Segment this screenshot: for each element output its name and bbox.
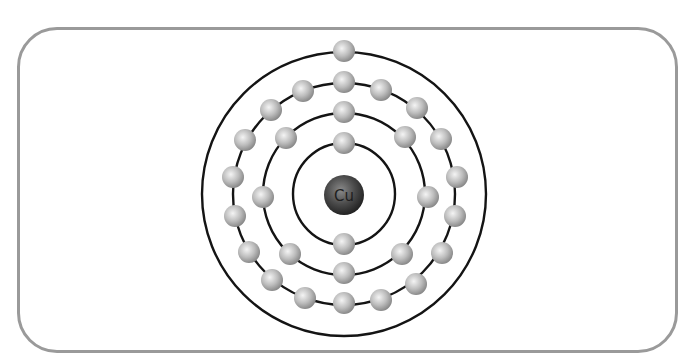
electron	[333, 262, 355, 284]
electron	[431, 242, 453, 264]
electron	[333, 233, 355, 255]
electron	[370, 79, 392, 101]
electron	[333, 292, 355, 314]
electron	[224, 205, 246, 227]
electron	[222, 166, 244, 188]
electron	[405, 273, 427, 295]
electron	[292, 80, 314, 102]
electron	[333, 40, 355, 62]
electron	[333, 101, 355, 123]
electron	[279, 243, 301, 265]
electron	[333, 71, 355, 93]
electron	[234, 129, 256, 151]
electron	[261, 269, 283, 291]
electron	[406, 97, 428, 119]
electron	[238, 241, 260, 263]
bohr-model-diagram: Cu	[0, 0, 698, 363]
electron	[391, 243, 413, 265]
electron	[333, 132, 355, 154]
electron	[444, 205, 466, 227]
nucleus: Cu	[324, 175, 364, 215]
electron	[430, 128, 452, 150]
element-symbol: Cu	[334, 187, 354, 205]
electron	[446, 166, 468, 188]
electron	[417, 186, 439, 208]
electron	[252, 186, 274, 208]
electron	[260, 99, 282, 121]
electron	[370, 289, 392, 311]
electron	[294, 287, 316, 309]
electron	[275, 127, 297, 149]
electron	[394, 126, 416, 148]
